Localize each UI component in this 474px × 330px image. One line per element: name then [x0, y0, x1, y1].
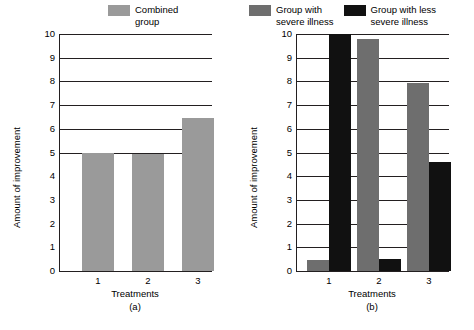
legend-label-combined-group: Combined group	[135, 4, 178, 27]
bar-a-treatment-2	[132, 154, 164, 271]
xtick-a-2: 2	[145, 276, 150, 286]
legend-a: Combined group	[108, 4, 188, 27]
ytick-b-3: 3	[287, 195, 292, 205]
legend-item-less-severe-illness: Group with less severe illness	[344, 4, 436, 27]
ytick-b-4: 4	[287, 171, 292, 181]
bar-b-severe-2	[357, 39, 379, 271]
bar-b-less-severe-2	[379, 259, 401, 271]
ytick-b-8: 8	[287, 77, 292, 87]
figure-root: Combined group 10 9 8 7 6 5 4 3 2 1 0	[0, 0, 474, 330]
x-axis-label-a: Treatments	[111, 288, 159, 299]
ytick-5: 5	[50, 148, 55, 158]
bar-b-severe-3	[407, 83, 429, 271]
ytick-b-1: 1	[287, 243, 292, 253]
chart-panel-a: Combined group 10 9 8 7 6 5 4 3 2 1 0	[0, 0, 237, 330]
plot-area-b: 10 9 8 7 6 5 4 3 2 1 0	[296, 34, 449, 272]
legend-label-severe-illness: Group with severe illness	[276, 4, 334, 27]
legend-b: Group with severe illness Group with les…	[249, 4, 446, 27]
xtick-b-1: 1	[326, 276, 331, 286]
ytick-b-9: 9	[287, 53, 292, 63]
ytick-b-5: 5	[287, 148, 292, 158]
ytick-2: 2	[50, 219, 55, 229]
bar-b-less-severe-1	[329, 34, 351, 271]
ytick-9: 9	[50, 53, 55, 63]
x-axis-label-b: Treatments	[348, 288, 396, 299]
xtick-a-3: 3	[195, 276, 200, 286]
ytick-0: 0	[50, 266, 55, 276]
ytick-6: 6	[50, 124, 55, 134]
y-axis-label-b: Amount of improvement	[249, 127, 259, 228]
bar-b-less-severe-3	[429, 162, 451, 271]
chart-panel-b: Group with severe illness Group with les…	[237, 0, 474, 330]
xtick-b-2: 2	[376, 276, 381, 286]
gridline-y8	[60, 81, 212, 82]
bar-b-severe-1	[307, 260, 329, 271]
ytick-3: 3	[50, 195, 55, 205]
legend-swatch-combined-group	[108, 5, 130, 16]
legend-swatch-less-severe-illness	[344, 5, 366, 16]
xtick-a-1: 1	[95, 276, 100, 286]
gridline-y7	[60, 105, 212, 106]
gridline-b-y10	[297, 34, 449, 35]
ytick-7: 7	[50, 100, 55, 110]
bar-a-treatment-3	[182, 118, 214, 271]
xtick-b-3: 3	[426, 276, 431, 286]
legend-item-severe-illness: Group with severe illness	[249, 4, 334, 27]
gridline-y9	[60, 58, 212, 59]
legend-swatch-severe-illness	[249, 5, 271, 16]
legend-label-less-severe-illness: Group with less severe illness	[371, 4, 436, 27]
bar-a-treatment-1	[82, 153, 114, 272]
ytick-1: 1	[50, 243, 55, 253]
ytick-b-7: 7	[287, 100, 292, 110]
legend-item-combined-group: Combined group	[108, 4, 178, 27]
ytick-8: 8	[50, 77, 55, 87]
ytick-b-6: 6	[287, 124, 292, 134]
panel-caption-b: (b)	[366, 301, 378, 312]
ytick-b-10: 10	[281, 29, 292, 39]
y-axis-label-a: Amount of improvement	[12, 127, 22, 228]
gridline-y10	[60, 34, 212, 35]
ytick-10: 10	[44, 29, 55, 39]
ytick-b-2: 2	[287, 219, 292, 229]
panel-caption-a: (a)	[129, 301, 141, 312]
ytick-4: 4	[50, 171, 55, 181]
plot-area-a: 10 9 8 7 6 5 4 3 2 1 0 1 2 3	[59, 34, 212, 272]
ytick-b-0: 0	[287, 266, 292, 276]
